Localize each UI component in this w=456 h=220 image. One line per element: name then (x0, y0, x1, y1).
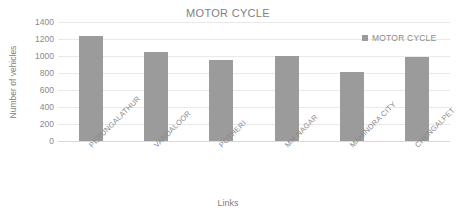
bar (275, 56, 299, 141)
gridline (58, 73, 450, 74)
y-axis-tick-labels: 1400120010008006004002000 (20, 22, 54, 141)
chart-title: MOTOR CYCLE (0, 7, 456, 19)
y-axis-tick-label: 400 (20, 103, 54, 112)
legend-label: MOTOR CYCLE (372, 33, 436, 43)
gridline (58, 56, 450, 57)
bar (79, 36, 103, 141)
gridline (58, 141, 450, 142)
gridline (58, 90, 450, 91)
y-axis-tick-label: 600 (20, 86, 54, 95)
legend-swatch-icon (362, 35, 368, 41)
y-axis-tick-label: 1000 (20, 52, 54, 61)
x-axis-title: Links (0, 198, 456, 208)
legend: MOTOR CYCLE (362, 33, 436, 43)
y-axis-tick-label: 0 (20, 137, 54, 146)
y-axis-title-text: Number of vehicles (8, 46, 18, 119)
bar (144, 52, 168, 141)
x-axis-tick-labels: PERUNGALATHURVANDALOORPOTHERIMM NAGARMAH… (58, 143, 450, 195)
bar-chart: MOTOR CYCLE Number of vehicles 140012001… (0, 0, 456, 220)
y-axis-title: Number of vehicles (6, 22, 20, 142)
y-axis-tick-label: 1200 (20, 35, 54, 44)
y-axis-tick-label: 200 (20, 120, 54, 129)
y-axis-tick-label: 800 (20, 69, 54, 78)
gridline (58, 22, 450, 23)
y-axis-tick-label: 1400 (20, 18, 54, 27)
